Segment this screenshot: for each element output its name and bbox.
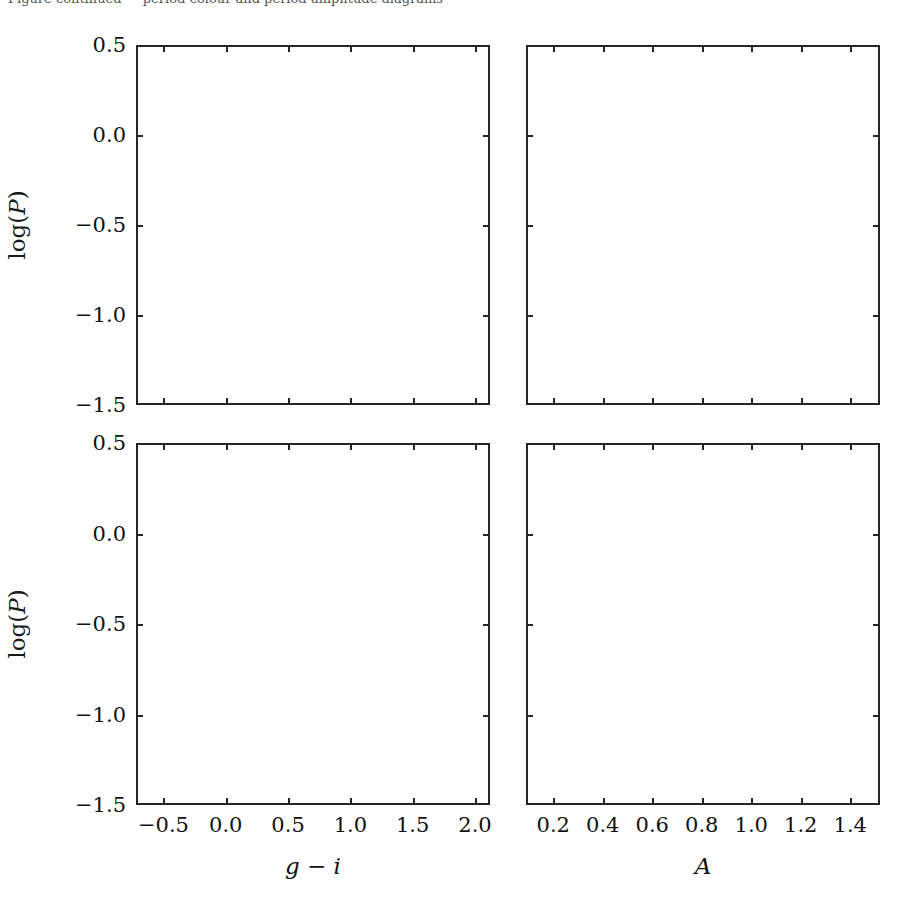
- axis-tick: [475, 398, 477, 405]
- x-tick-label: 1.5: [396, 813, 429, 837]
- axis-tick: [702, 45, 704, 52]
- axis-tick: [751, 45, 753, 52]
- axis-tick: [850, 798, 852, 805]
- axis-tick: [801, 443, 803, 450]
- axis-tick: [873, 715, 880, 717]
- axis-tick: [163, 45, 165, 52]
- axis-tick: [652, 798, 654, 805]
- axis-tick: [136, 624, 143, 626]
- y-tick-label: −1.5: [40, 793, 126, 817]
- axis-tick: [603, 398, 605, 405]
- axis-tick: [483, 624, 490, 626]
- y-axis-title: log(P): [0, 45, 34, 405]
- axis-tick: [526, 315, 533, 317]
- axis-tick: [603, 798, 605, 805]
- x-tick-label: 0.2: [537, 813, 570, 837]
- axis-tick: [226, 398, 228, 405]
- axis-tick: [226, 798, 228, 805]
- axis-tick: [350, 443, 352, 450]
- axis-tick: [483, 715, 490, 717]
- axis-tick: [350, 798, 352, 805]
- axis-tick: [136, 715, 143, 717]
- axis-tick: [226, 443, 228, 450]
- axis-tick: [413, 398, 415, 405]
- axis-tick: [850, 398, 852, 405]
- y-tick-label: 0.0: [40, 522, 126, 546]
- axis-tick: [751, 443, 753, 450]
- axis-tick: [350, 45, 352, 52]
- axis-tick: [163, 443, 165, 450]
- x-axis-title: A: [695, 853, 712, 879]
- axis-tick: [652, 398, 654, 405]
- axis-tick: [850, 443, 852, 450]
- axis-tick: [136, 225, 143, 227]
- panel-frame-top-right: [526, 45, 880, 405]
- axis-tick: [850, 45, 852, 52]
- axis-tick: [603, 443, 605, 450]
- x-tick-label: 0.0: [209, 813, 242, 837]
- axis-tick: [526, 624, 533, 626]
- axis-tick: [553, 798, 555, 805]
- y-tick-label: −1.0: [40, 303, 126, 327]
- axis-tick: [413, 443, 415, 450]
- x-tick-label: 0.6: [636, 813, 669, 837]
- y-tick-label: 0.5: [40, 431, 126, 455]
- axis-tick: [801, 45, 803, 52]
- x-tick-label: 1.0: [334, 813, 367, 837]
- axis-tick: [288, 443, 290, 450]
- axis-tick: [873, 225, 880, 227]
- y-tick-label: −0.5: [40, 612, 126, 636]
- axis-tick: [483, 534, 490, 536]
- axis-tick: [553, 398, 555, 405]
- y-tick-label: −1.5: [40, 393, 126, 417]
- y-axis-title-text: log(P): [4, 190, 30, 259]
- x-tick-label: 1.0: [735, 813, 768, 837]
- figure-root: Figure continued — period-colour and per…: [0, 0, 919, 916]
- y-tick-label: −1.0: [40, 703, 126, 727]
- x-tick-label: 1.4: [834, 813, 867, 837]
- scatter-panel-bottom-left: [136, 443, 490, 805]
- axis-tick: [526, 135, 533, 137]
- panel-frame-top-left: [136, 45, 490, 405]
- axis-tick: [350, 398, 352, 405]
- x-tick-label: 2.0: [458, 813, 491, 837]
- axis-tick: [483, 135, 490, 137]
- axis-tick: [873, 135, 880, 137]
- scatter-panel-top-left: [136, 45, 490, 405]
- axis-tick: [288, 398, 290, 405]
- x-tick-label: 1.2: [784, 813, 817, 837]
- axis-tick: [288, 45, 290, 52]
- y-tick-label: −0.5: [40, 213, 126, 237]
- axis-tick: [483, 225, 490, 227]
- panel-frame-bottom-right: [526, 443, 880, 805]
- axis-tick: [873, 534, 880, 536]
- x-tick-label: −0.5: [138, 813, 189, 837]
- panel-frame-bottom-left: [136, 443, 490, 805]
- axis-tick: [136, 534, 143, 536]
- x-tick-label: 0.4: [586, 813, 619, 837]
- axis-tick: [652, 443, 654, 450]
- axis-tick: [413, 45, 415, 52]
- axis-tick: [163, 398, 165, 405]
- axis-tick: [475, 798, 477, 805]
- axis-tick: [553, 443, 555, 450]
- x-axis-title: g − i: [285, 853, 341, 879]
- scatter-panel-top-right: [526, 45, 880, 405]
- clipped-header-text: Figure continued — period-colour and per…: [8, 0, 468, 7]
- axis-tick: [163, 798, 165, 805]
- y-tick-label: 0.0: [40, 123, 126, 147]
- axis-tick: [288, 798, 290, 805]
- axis-tick: [801, 798, 803, 805]
- axis-tick: [226, 45, 228, 52]
- axis-tick: [526, 715, 533, 717]
- axis-tick: [603, 45, 605, 52]
- axis-tick: [652, 45, 654, 52]
- y-axis-title: log(P): [0, 443, 34, 805]
- axis-tick: [702, 798, 704, 805]
- axis-tick: [136, 135, 143, 137]
- axis-tick: [801, 398, 803, 405]
- axis-tick: [136, 315, 143, 317]
- axis-tick: [751, 398, 753, 405]
- axis-tick: [475, 443, 477, 450]
- axis-tick: [553, 45, 555, 52]
